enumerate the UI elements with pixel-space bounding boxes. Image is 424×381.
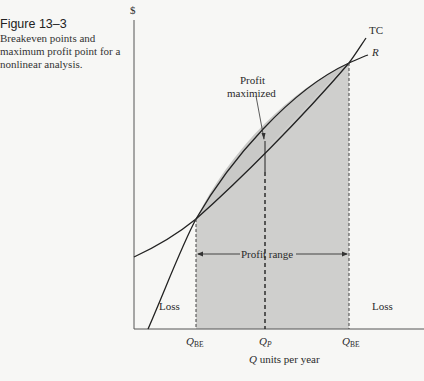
tc-label: TC [369, 24, 383, 36]
q-p-tick-label: QP [259, 335, 272, 349]
profit-maximized-label-2: maximized [227, 87, 276, 99]
q-be-left-tick-label: QBE [186, 335, 204, 349]
y-axis-label: $ [130, 4, 136, 16]
loss-left-label: Loss [159, 300, 180, 312]
r-label: R [371, 46, 379, 58]
profit-maximized-label-1: Profit [240, 74, 265, 86]
x-axis-label: Q units per year [249, 353, 320, 365]
breakeven-chart: $ TC R Profit maximized Profit range Los… [0, 0, 424, 381]
q-be-right-tick-label: QBE [342, 335, 360, 349]
loss-right-label: Loss [372, 300, 393, 312]
profit-range-label: Profit range [241, 248, 293, 260]
